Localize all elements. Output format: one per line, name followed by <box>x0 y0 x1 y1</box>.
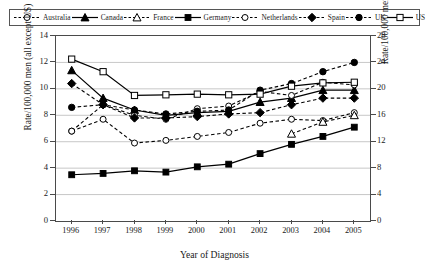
filled-square-marker <box>320 134 326 140</box>
filled-diamond-marker <box>319 94 327 102</box>
open-square-marker <box>100 69 106 75</box>
legend-item-netherlands[interactable]: Netherlands <box>231 12 297 23</box>
filled-square-marker <box>100 171 106 177</box>
filled-diamond-marker <box>308 13 316 21</box>
series-germany <box>69 124 357 177</box>
filled-square-marker <box>163 169 169 175</box>
filled-circle-marker <box>351 59 357 65</box>
legend-item-us[interactable]: US <box>386 12 426 23</box>
filled-circle-marker <box>69 104 75 110</box>
filled-circle-marker <box>194 108 200 114</box>
x-tick-mark <box>353 220 354 224</box>
open-square-marker <box>69 56 75 62</box>
x-tick-mark <box>165 220 166 224</box>
series-uk <box>69 59 358 117</box>
filled-diamond-marker <box>350 94 358 102</box>
x-tick-mark <box>291 220 292 224</box>
filled-square-marker <box>351 124 357 130</box>
legend-item-france[interactable]: France <box>123 12 173 23</box>
x-tick-mark <box>228 220 229 224</box>
filled-square-marker <box>174 12 202 23</box>
open-circle-marker <box>100 116 106 122</box>
filled-square-marker <box>226 161 232 167</box>
open-square-marker <box>131 92 137 98</box>
y-tick-mark-right <box>371 194 376 195</box>
x-tick-mark <box>196 220 197 224</box>
open-square-marker <box>257 91 263 97</box>
open-square-marker <box>288 83 294 89</box>
x-tick-mark <box>134 220 135 224</box>
filled-square-marker <box>69 172 75 178</box>
filled-circle-marker <box>226 107 232 113</box>
filled-circle-marker <box>100 102 106 108</box>
filled-circle-marker <box>356 14 362 20</box>
legend-item-australia[interactable]: Australia <box>13 12 71 23</box>
open-circle-marker <box>242 15 248 21</box>
open-circle-marker <box>289 116 295 122</box>
x-tick-label: 2005 <box>333 226 373 235</box>
y-tick-label-right: 4 <box>377 189 407 197</box>
y-tick-mark-right <box>371 35 376 36</box>
y-tick-mark-right <box>371 114 376 115</box>
x-tick-mark <box>71 220 72 224</box>
filled-square-marker <box>194 164 200 170</box>
open-circle-marker <box>132 140 138 146</box>
y-tick-label-right: 12 <box>377 136 407 144</box>
y-tick-label-left: 0 <box>18 216 48 224</box>
open-square-marker <box>194 91 200 97</box>
open-circle-marker <box>226 129 232 135</box>
legend-item-germany[interactable]: Germany <box>174 12 232 23</box>
y-tick-label-left: 2 <box>18 189 48 197</box>
legend-item-label: US <box>415 13 426 22</box>
filled-diamond-marker <box>68 79 76 87</box>
filled-diamond-marker <box>298 12 326 23</box>
filled-circle-marker <box>131 107 137 113</box>
y-tick-mark-left <box>50 141 55 142</box>
y-tick-mark-left <box>50 167 55 168</box>
legend-item-label: Spain <box>327 13 345 22</box>
y-tick-mark-left <box>50 194 55 195</box>
y-tick-mark-left <box>50 220 55 221</box>
open-square-marker <box>163 92 169 98</box>
filled-square-marker <box>289 141 295 147</box>
filled-square-marker <box>257 151 263 157</box>
x-tick-mark <box>102 220 103 224</box>
legend-item-label: Australia <box>42 13 71 22</box>
filled-square-marker <box>185 15 191 21</box>
x-tick-mark <box>259 220 260 224</box>
filled-triangle-marker <box>68 66 76 73</box>
open-square-marker <box>226 92 232 98</box>
open-square-marker <box>320 80 326 86</box>
open-circle-marker <box>163 137 169 143</box>
open-circle-marker <box>289 92 295 98</box>
open-triangle-marker <box>288 130 296 137</box>
open-square-marker <box>351 79 357 85</box>
y-tick-mark-right <box>371 61 376 62</box>
open-square-marker <box>397 14 403 20</box>
open-circle-marker <box>257 120 263 126</box>
plot-lines <box>56 36 370 221</box>
y-tick-label-right: 16 <box>377 110 407 118</box>
y-tick-label-right: 0 <box>377 216 407 224</box>
y-tick-mark-left <box>50 88 55 89</box>
y-tick-mark-left <box>50 61 55 62</box>
filled-square-marker <box>132 168 138 174</box>
y-tick-mark-right <box>371 88 376 89</box>
y-tick-label-right: 8 <box>377 163 407 171</box>
legend-item-label: Netherlands <box>260 13 297 22</box>
filled-circle-marker <box>163 111 169 117</box>
legend-item-label: Canada <box>100 13 123 22</box>
legend-item-spain[interactable]: Spain <box>298 12 345 23</box>
y-tick-mark-right <box>371 220 376 221</box>
open-triangle-marker <box>123 12 151 23</box>
legend-item-canada[interactable]: Canada <box>71 12 123 23</box>
x-axis-title: Year of Diagnosis <box>0 249 429 260</box>
y-axis-right-title: Rate/100,000 men (US) <box>380 0 390 95</box>
y-tick-mark-left <box>50 35 55 36</box>
legend-item-label: Germany <box>203 13 232 22</box>
x-tick-mark <box>322 220 323 224</box>
chart-legend: AustraliaCanadaFranceGermanyNetherlandsS… <box>9 9 420 26</box>
chart-figure: AustraliaCanadaFranceGermanyNetherlandsS… <box>0 0 429 270</box>
filled-triangle-marker <box>71 12 99 23</box>
open-circle-marker <box>194 133 200 139</box>
